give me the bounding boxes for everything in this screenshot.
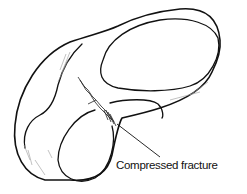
bone-ridge xyxy=(24,44,82,148)
fracture-line xyxy=(78,77,116,126)
bone-outline xyxy=(15,9,221,180)
shading xyxy=(24,52,208,175)
fracture-label: Compressed fracture xyxy=(116,159,218,171)
articular-surface-upper xyxy=(101,19,219,91)
annotation-leader-line xyxy=(117,124,160,157)
